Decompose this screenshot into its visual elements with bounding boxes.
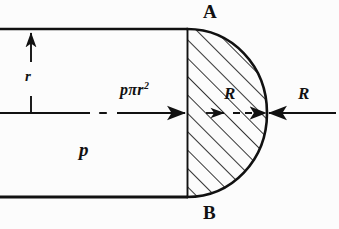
pressure-force-exponent: 2	[144, 80, 149, 91]
dome-hatch-fill	[187, 29, 267, 197]
label-reaction-inner: R	[224, 85, 235, 102]
label-vertex-b: B	[203, 203, 216, 222]
diagram-canvas: A B r p pπr2 R R	[0, 0, 339, 229]
label-pressure-force-formula: pπr2	[120, 81, 149, 98]
free-body-diagram-svg	[0, 0, 339, 229]
label-reaction-outer: R	[298, 85, 309, 102]
pressure-force-base: pπr	[120, 81, 144, 98]
dome-cap-region	[187, 29, 267, 197]
label-vertex-a: A	[203, 2, 217, 21]
label-radius-r: r	[25, 69, 31, 84]
label-pressure-p: p	[79, 140, 89, 159]
